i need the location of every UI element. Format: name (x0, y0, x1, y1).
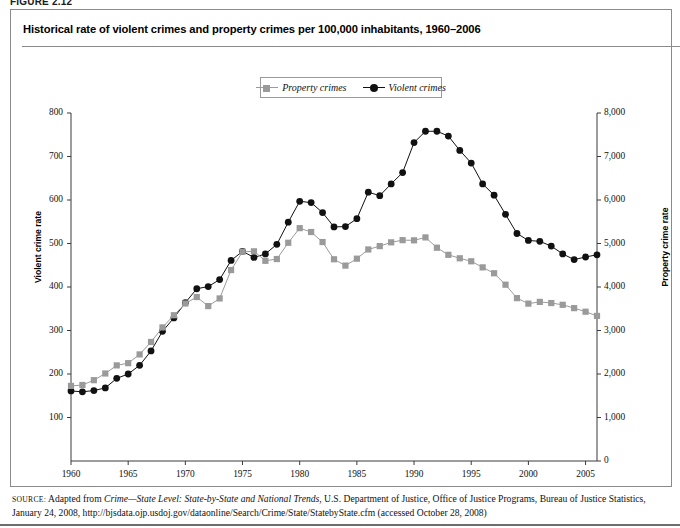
data-point (114, 362, 120, 368)
data-point (217, 295, 223, 301)
x-axis-tick-1985: 1985 (337, 469, 377, 479)
data-point (273, 241, 280, 248)
data-point (113, 375, 120, 382)
data-point (68, 383, 74, 389)
data-point (319, 239, 325, 245)
data-point (468, 160, 475, 167)
data-point (262, 251, 269, 258)
source-note: SOURCE: Adapted from Crime—State Level: … (12, 492, 672, 519)
y-axis-left-tick-300: 300 (29, 325, 63, 335)
data-point (297, 225, 303, 231)
data-point (560, 302, 566, 308)
data-point (411, 237, 417, 243)
data-point (468, 258, 474, 264)
data-point (159, 324, 165, 330)
data-point (411, 139, 418, 146)
data-point (308, 229, 314, 235)
chart-svg (11, 10, 673, 488)
series-property-crimes (68, 225, 600, 389)
data-point (388, 239, 394, 245)
data-point (537, 299, 543, 305)
y-axis-left-tick-600: 600 (29, 194, 63, 204)
source-prefix: SOURCE: (12, 495, 46, 504)
data-point (559, 251, 566, 258)
data-point (365, 189, 372, 196)
data-point (502, 282, 508, 288)
data-point (376, 192, 383, 199)
data-point (79, 388, 86, 395)
data-point (525, 237, 532, 244)
data-point (331, 256, 337, 262)
data-point (353, 215, 360, 222)
y-axis-right-tick-1,000: 1,000 (604, 412, 644, 422)
data-point (548, 243, 555, 250)
chart-plot-area: Violent crime rate Property crime rate (11, 10, 673, 488)
data-point (285, 219, 292, 226)
data-point (331, 224, 338, 231)
data-point (342, 223, 349, 230)
data-point (274, 256, 280, 262)
data-point (422, 128, 429, 135)
y-axis-right-tick-3,000: 3,000 (604, 325, 644, 335)
data-point (296, 198, 303, 205)
data-point (125, 360, 131, 366)
y-axis-left-tick-500: 500 (29, 238, 63, 248)
data-point (514, 295, 520, 301)
y-axis-right-tick-6,000: 6,000 (604, 194, 644, 204)
bottom-divider (0, 524, 680, 526)
data-point (182, 300, 188, 306)
x-axis-tick-1965: 1965 (108, 469, 148, 479)
source-text-1: Adapted from (46, 493, 104, 504)
x-axis-tick-1960: 1960 (51, 469, 91, 479)
data-point (251, 254, 258, 261)
data-point (79, 382, 85, 388)
data-point (308, 199, 315, 206)
y-axis-right-tick-5,000: 5,000 (604, 238, 644, 248)
y-axis-left-tick-800: 800 (29, 107, 63, 117)
data-point (582, 309, 588, 315)
data-point (457, 255, 463, 261)
data-point (388, 181, 395, 188)
y-axis-right-tick-2,000: 2,000 (604, 368, 644, 378)
data-point (137, 351, 143, 357)
data-point (479, 181, 486, 188)
data-point (251, 248, 257, 254)
y-axis-right-tick-0: 0 (604, 455, 644, 465)
y-axis-right-tick-7,000: 7,000 (604, 151, 644, 161)
x-axis-tick-1975: 1975 (223, 469, 263, 479)
data-point (228, 257, 235, 264)
y-axis-left-tick-700: 700 (29, 151, 63, 161)
x-axis-tick-1990: 1990 (394, 469, 434, 479)
data-point (491, 270, 497, 276)
data-point (525, 301, 531, 307)
x-axis-tick-2005: 2005 (566, 469, 606, 479)
data-point (536, 238, 543, 245)
data-point (365, 246, 371, 252)
y-axis-right-tick-4,000: 4,000 (604, 281, 644, 291)
data-point (102, 370, 108, 376)
data-point (285, 240, 291, 246)
data-point (582, 254, 589, 261)
data-point (102, 385, 109, 392)
x-axis-tick-1970: 1970 (165, 469, 205, 479)
data-point (171, 312, 177, 318)
data-point (480, 264, 486, 270)
data-point (491, 192, 498, 199)
data-point (571, 305, 577, 311)
data-point (445, 133, 452, 140)
data-point (262, 258, 268, 264)
data-point (548, 300, 554, 306)
data-point (216, 276, 223, 283)
data-point (434, 245, 440, 251)
data-point (456, 147, 463, 154)
data-point (205, 303, 211, 309)
data-point (90, 387, 97, 394)
data-point (125, 371, 132, 378)
y-axis-right-tick-8,000: 8,000 (604, 107, 644, 117)
data-point (354, 256, 360, 262)
data-point (377, 243, 383, 249)
data-point (594, 251, 601, 258)
data-point (148, 348, 155, 355)
data-point (205, 283, 212, 290)
figure-number-label: FIGURE 2.12 (10, 0, 72, 8)
